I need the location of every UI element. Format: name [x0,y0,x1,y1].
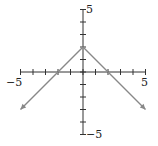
coordinate-plane [0,0,158,146]
x-min-label: −5 [6,77,22,88]
x-max-label: 5 [141,77,148,88]
y-max-label: 5 [86,4,93,15]
y-axis [80,10,86,135]
y-min-label: −5 [86,129,102,140]
